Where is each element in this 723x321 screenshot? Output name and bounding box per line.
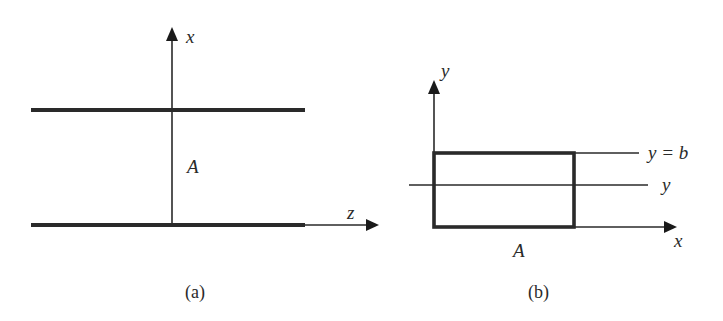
figure: x A z (a) y y = b y x A (b) — [0, 0, 723, 321]
panel-a-x-axis-label: x — [186, 27, 194, 46]
panel-a-region-label: A — [187, 157, 199, 176]
panel-a-x-axis-arrow-icon — [166, 27, 178, 41]
panel-b-y-axis-arrow-icon — [428, 80, 440, 94]
panel-b-diagram — [409, 80, 677, 233]
panel-b-upper-line-label: y = b — [648, 143, 688, 162]
panel-b-y-axis-label: y — [441, 61, 449, 80]
panel-b-x-axis-label: x — [674, 231, 682, 250]
panel-a-caption: (a) — [185, 283, 205, 301]
panel-a-z-axis-label: z — [347, 203, 354, 222]
panel-a-z-axis-arrow-icon — [366, 219, 379, 231]
panel-b-middle-line-label: y — [662, 175, 670, 194]
panel-b-rectangle-region — [434, 153, 574, 227]
panel-a-diagram — [31, 27, 379, 231]
panel-b-caption: (b) — [528, 283, 549, 301]
panel-b-region-label: A — [513, 241, 525, 260]
